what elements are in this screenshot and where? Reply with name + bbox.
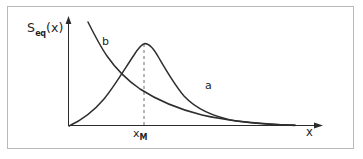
y-axis-label: Seq(x) xyxy=(27,22,64,38)
y-axis-label-main: S xyxy=(27,20,35,35)
y-axis-label-argument: (x) xyxy=(46,20,64,35)
curve-a-path xyxy=(69,44,295,127)
x-peak-tick-subscript: M xyxy=(140,133,148,142)
x-axis-arrow-icon xyxy=(314,122,323,128)
x-peak-tick-label: xM xyxy=(133,128,147,142)
figure-root: Seq(x) x xM b a xyxy=(0,0,363,159)
x-axis-label: x xyxy=(306,127,313,139)
y-axis-arrow-icon xyxy=(66,16,72,24)
y-axis-label-subscript: eq xyxy=(35,29,46,38)
curve-a-label: a xyxy=(205,80,212,91)
curve-b-path xyxy=(88,22,295,126)
curve-b-label: b xyxy=(102,36,109,47)
